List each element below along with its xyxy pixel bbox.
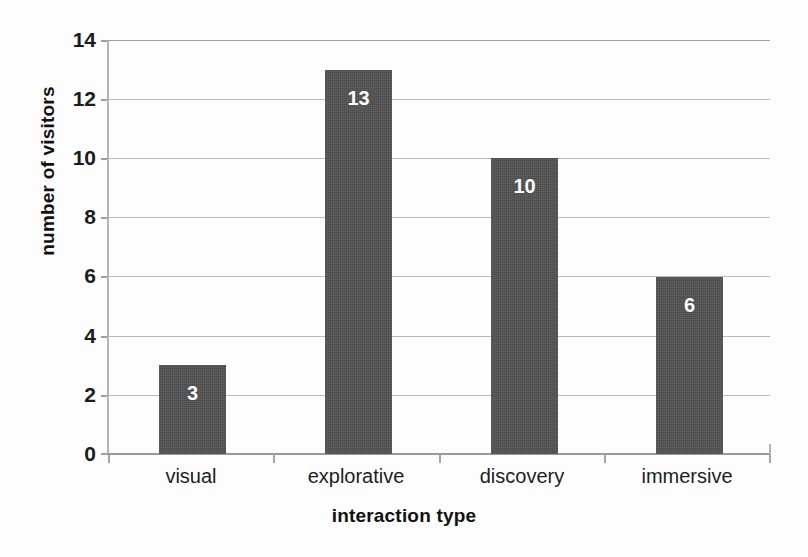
y-tick-label-2: 2 (56, 384, 96, 405)
x-tick-mark-1 (273, 454, 275, 463)
x-tick-label-visual: visual (108, 466, 274, 486)
x-tick-label-discovery: discovery (439, 466, 605, 486)
bar-value-discovery: 10 (491, 176, 558, 196)
bar-discovery[interactable]: 10 (491, 158, 558, 454)
x-tick-label-explorative: explorative (273, 466, 439, 486)
gridline-12 (108, 99, 770, 100)
bar-chart-figure: number of visitors 14 12 10 8 6 4 2 0 3 (0, 0, 808, 557)
x-tick-mark-3 (604, 454, 606, 463)
bar-value-visual: 3 (159, 383, 226, 403)
gridline-10 (108, 158, 770, 159)
bar-immersive[interactable]: 6 (656, 277, 723, 454)
bar-explorative[interactable]: 13 (325, 70, 392, 454)
y-tick-label-4: 4 (56, 325, 96, 346)
bar-value-immersive: 6 (656, 295, 723, 315)
bar-visual[interactable]: 3 (159, 365, 226, 454)
y-tick-label-10: 10 (56, 147, 96, 168)
y-tick-label-12: 12 (56, 88, 96, 109)
x-axis-title: interaction type (0, 505, 808, 527)
y-tick-label-8: 8 (56, 206, 96, 227)
bar-value-explorative: 13 (325, 88, 392, 108)
y-tick-label-14: 14 (56, 29, 96, 50)
x-tick-mark-4 (769, 454, 771, 463)
x-tick-mark-0 (108, 454, 110, 463)
y-tick-label-6: 6 (56, 265, 96, 286)
gridline-14 (108, 40, 770, 41)
x-tick-mark-2 (439, 454, 441, 463)
x-tick-label-immersive: immersive (604, 466, 770, 486)
plot-area: 3 13 10 6 (108, 40, 770, 454)
y-tick-label-0: 0 (56, 443, 96, 464)
y-axis-tick-labels: 14 12 10 8 6 4 2 0 (50, 0, 96, 557)
gridline-8 (108, 217, 770, 218)
